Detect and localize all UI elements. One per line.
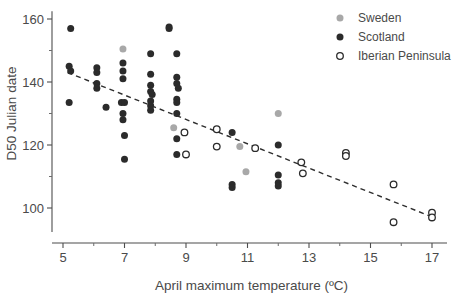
data-point-filled — [119, 75, 126, 82]
data-point-filled — [119, 60, 126, 67]
legend-marker-filled — [337, 15, 344, 22]
data-point-filled — [229, 184, 236, 191]
data-point-filled — [242, 168, 249, 175]
data-point-filled — [275, 182, 282, 189]
data-point-filled — [119, 45, 126, 52]
data-point-filled — [166, 25, 173, 32]
x-tick-label: 7 — [121, 250, 128, 265]
data-point-open — [343, 153, 350, 160]
data-point-filled — [173, 110, 180, 117]
data-point-filled — [119, 116, 126, 123]
legend-marker-open — [337, 53, 344, 60]
data-point-filled — [149, 91, 156, 98]
data-point-open — [300, 170, 307, 177]
data-point-filled — [119, 67, 126, 74]
legend-label-iberian-peninsula: Iberian Peninsula — [358, 49, 451, 63]
data-point-filled — [121, 156, 128, 163]
scatter-chart: 10012014016057911131517April maximum tem… — [0, 0, 455, 299]
y-tick-label: 160 — [22, 12, 44, 27]
data-point-filled — [275, 110, 282, 117]
data-point-filled — [229, 129, 236, 136]
y-tick-label: 120 — [22, 138, 44, 153]
data-point-filled — [67, 25, 74, 32]
data-point-open — [213, 126, 220, 133]
x-axis-title: April maximum temperature (ºC) — [155, 278, 348, 293]
data-point-open — [181, 129, 188, 136]
x-tick-label: 13 — [302, 250, 316, 265]
trendline — [68, 73, 435, 219]
series-sweden — [119, 45, 281, 175]
data-point-filled — [170, 124, 177, 131]
data-point-filled — [121, 132, 128, 139]
data-point-filled — [275, 142, 282, 149]
x-tick-label: 5 — [59, 250, 66, 265]
legend-marker-filled — [337, 34, 344, 41]
data-point-filled — [175, 85, 182, 92]
chart-legend: SwedenScotlandIberian Peninsula — [337, 11, 452, 63]
data-point-open — [183, 151, 190, 158]
data-point-filled — [173, 99, 180, 106]
data-point-open — [390, 181, 397, 188]
data-point-filled — [147, 71, 154, 78]
data-point-filled — [147, 82, 154, 89]
data-point-filled — [173, 151, 180, 158]
data-point-filled — [93, 69, 100, 76]
data-point-filled — [67, 67, 74, 74]
x-tick-label: 17 — [425, 250, 439, 265]
y-tick-label: 100 — [22, 201, 44, 216]
data-point-filled — [119, 110, 126, 117]
series-iberian-peninsula — [181, 126, 435, 226]
data-point-filled — [66, 99, 73, 106]
y-axis-title: D50 Julian date — [4, 67, 19, 161]
data-point-filled — [173, 74, 180, 81]
legend-label-scotland: Scotland — [358, 30, 405, 44]
data-point-open — [252, 145, 259, 152]
data-point-filled — [147, 50, 154, 57]
y-tick-label: 140 — [22, 75, 44, 90]
data-point-filled — [173, 50, 180, 57]
axes — [47, 11, 447, 248]
data-point-filled — [236, 143, 243, 150]
legend-label-sweden: Sweden — [358, 11, 401, 25]
data-point-filled — [103, 104, 110, 111]
data-point-filled — [93, 85, 100, 92]
trend-line — [68, 73, 435, 219]
data-point-open — [298, 159, 305, 166]
data-point-filled — [147, 107, 154, 114]
data-point-filled — [173, 135, 180, 142]
data-point-open — [213, 143, 220, 150]
data-point-filled — [275, 171, 282, 178]
series-scotland — [66, 23, 282, 191]
data-point-open — [390, 219, 397, 226]
x-tick-label: 11 — [241, 250, 255, 265]
data-point-open — [429, 214, 436, 221]
chart-canvas: 10012014016057911131517April maximum tem… — [0, 0, 455, 299]
data-point-filled — [121, 99, 128, 106]
x-tick-label: 15 — [363, 250, 377, 265]
x-tick-label: 9 — [182, 250, 189, 265]
